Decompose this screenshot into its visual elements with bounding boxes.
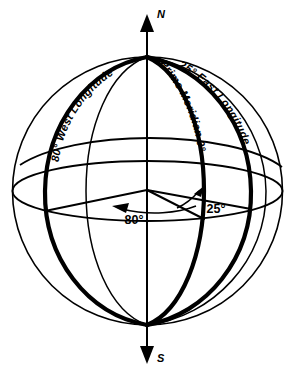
meridian-80-west (45, 57, 147, 325)
south-arrowhead (140, 346, 154, 364)
angle-label-80: 80° (125, 213, 144, 227)
angle-arc-80 (122, 206, 196, 213)
meridian-east-back-arc (147, 57, 266, 325)
globe-illustration: N S 80° 25° 80° West Longitude Prime Mer… (0, 0, 296, 378)
north-pole-label: N (157, 8, 166, 20)
meridian-label-80-west-text: 80° West Longitude (49, 66, 115, 163)
longitude-globe-diagram: N S 80° 25° 80° West Longitude Prime Mer… (0, 0, 296, 378)
radial-line-west (45, 190, 147, 211)
angle-arc-80-arrowhead (112, 203, 129, 213)
north-arrowhead (140, 14, 154, 32)
meridian-label-80-west: 80° West Longitude (49, 66, 115, 163)
south-pole-label: S (157, 352, 165, 364)
angle-label-25: 25° (207, 202, 226, 216)
